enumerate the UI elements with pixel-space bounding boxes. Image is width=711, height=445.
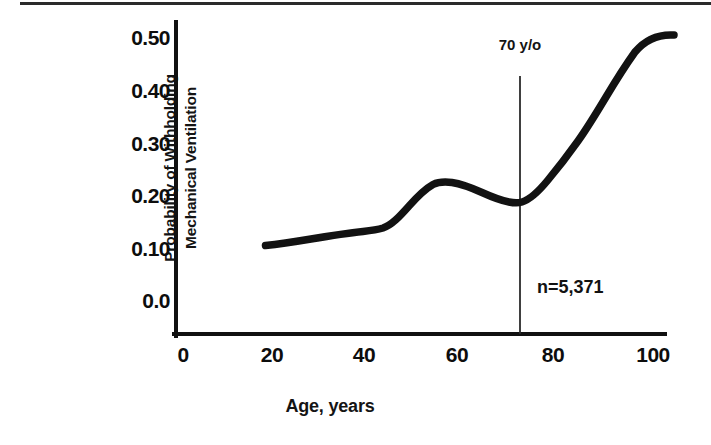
probability-curve bbox=[266, 35, 675, 246]
x-tick-100: 100 bbox=[636, 344, 670, 365]
x-tick-80: 80 bbox=[542, 344, 564, 365]
annotation-sample-size: n=5,371 bbox=[537, 277, 604, 298]
x-tick-0: 0 bbox=[177, 344, 188, 365]
x-axis-tick-labels: 0 20 40 60 80 100 bbox=[0, 344, 711, 374]
annotation-70yo-label: 70 y/o bbox=[499, 36, 542, 53]
x-axis-title: Age, years bbox=[0, 396, 660, 417]
x-tick-20: 20 bbox=[261, 344, 283, 365]
x-tick-60: 60 bbox=[446, 344, 468, 365]
x-tick-40: 40 bbox=[353, 344, 375, 365]
chart-figure: Probability of Withholding Mechanical Ve… bbox=[0, 0, 711, 445]
plot-canvas bbox=[0, 0, 711, 445]
